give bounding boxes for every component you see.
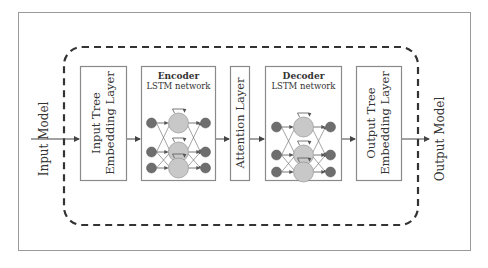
attention-layer-label: Attention Layer: [233, 77, 247, 170]
output-tree-embedding-line1: Output Tree: [364, 87, 378, 158]
output-tree-embedding-box: Output Tree Embedding Layer: [357, 67, 402, 181]
encoder-subtitle: LSTM network: [146, 81, 211, 91]
output-tree-embedding-line2: Embedding Layer: [378, 71, 392, 175]
attention-layer-box: Attention Layer: [231, 67, 250, 181]
input-tree-embedding-line1: Input Tree: [89, 92, 103, 154]
input-tree-embedding-line2: Embedding Layer: [103, 71, 117, 175]
decoder-title: Decoder: [283, 71, 325, 81]
diagram-canvas: Input Model Output Model Input Tree Embe…: [0, 0, 488, 268]
encoder-box: Encoder LSTM network: [142, 67, 216, 181]
decoder-subtitle: LSTM network: [271, 81, 336, 91]
input-tree-embedding-box: Input Tree Embedding Layer: [81, 67, 127, 181]
encoder-title: Encoder: [158, 71, 200, 81]
output-model-label: Output Model: [433, 97, 447, 182]
decoder-box: Decoder LSTM network: [266, 67, 342, 183]
